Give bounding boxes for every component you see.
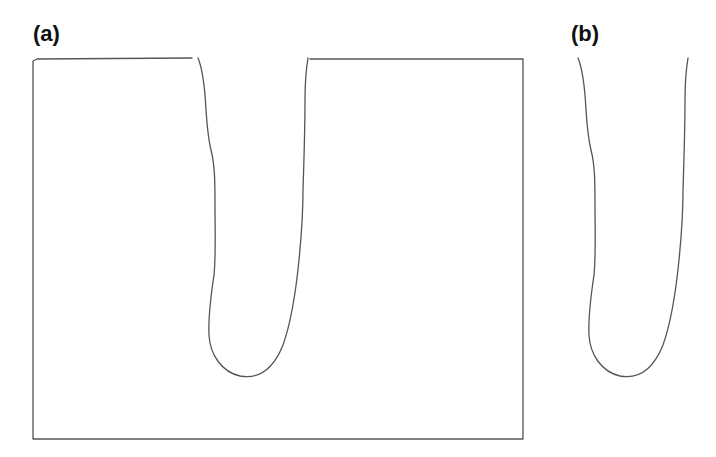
panel-a-diagram (33, 58, 523, 439)
figure-canvas (0, 0, 716, 457)
panel-a-notch-profile (198, 58, 308, 377)
panel-b-diagram (578, 58, 688, 377)
panel-a-block-outline (33, 58, 523, 439)
panel-b-notch-profile (578, 58, 688, 377)
